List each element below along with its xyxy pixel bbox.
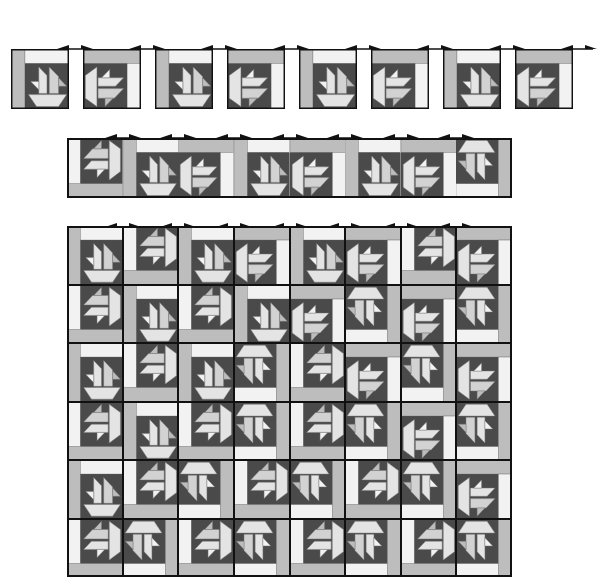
pressing-direction-arrow-icon [273,38,309,46]
quilt-block [11,49,69,109]
pressing-direction-arrow-icon [272,216,308,224]
pressing-direction-arrow-icon [105,127,141,135]
pressing-direction-arrow-icon [160,127,196,135]
quilt-block [83,49,141,109]
pressing-direction-arrow-icon [327,216,363,224]
pressing-direction-arrow-icon [489,38,525,46]
quilt-block [515,49,573,109]
pressing-direction-arrow-icon [216,216,252,224]
pressing-direction-arrow-icon [383,216,419,224]
pressing-direction-arrow-icon [272,127,308,135]
pressing-direction-arrow-icon [438,216,474,224]
quilt-block [443,49,501,109]
quilt-block [299,49,357,109]
pressing-direction-arrow-icon [438,127,474,135]
pressing-direction-arrow-icon [216,127,252,135]
pressing-direction-arrow-icon [160,216,196,224]
pressing-direction-arrow-icon [561,38,597,46]
pressing-direction-arrow-icon [345,38,381,46]
pressing-direction-arrow-icon [201,38,237,46]
quilt-block [155,49,213,109]
pressing-direction-arrow-icon [105,216,141,224]
quilt-block [371,49,429,109]
quilt-top-outline [67,226,512,577]
pressing-direction-arrow-icon [57,38,93,46]
pressing-direction-arrow-icon [327,127,363,135]
row-strip-outline [67,138,512,198]
pressing-direction-arrow-icon [129,38,165,46]
pressing-direction-arrow-icon [417,38,453,46]
quilt-block [227,49,285,109]
pressing-direction-arrow-icon [383,127,419,135]
